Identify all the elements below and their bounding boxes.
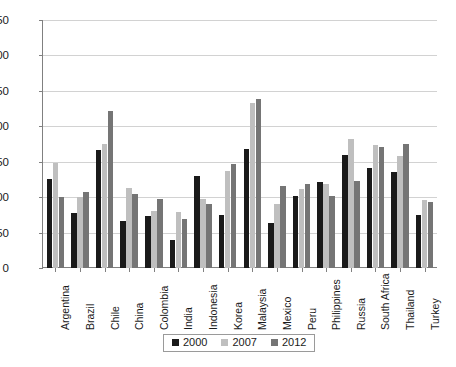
x-axis-tick-mark [326,268,327,272]
bar-2007-russia [348,139,353,268]
bar-group [314,20,339,268]
bar-2000-thailand [391,172,396,268]
bar-2000-indonesia [194,176,199,268]
bar-2007-brazil [77,197,82,268]
bar-group [166,20,191,268]
bar-2000-philippines [317,182,322,268]
bar-2007-korea [225,171,230,268]
bar-group [43,20,68,268]
y-axis-tick-mark [39,268,43,269]
bar-2000-china [120,221,125,268]
x-axis-label-south-africa: South Africa [379,273,391,330]
bar-group [412,20,437,268]
bar-group [117,20,142,268]
bar-group [363,20,388,268]
bar-group [339,20,364,268]
bar-2012-korea [231,164,236,268]
bar-group [388,20,413,268]
x-axis-tick-mark [277,268,278,272]
x-axis-tick-mark [154,268,155,272]
x-axis-label-brazil: Brazil [84,304,96,330]
bar-2012-malaysia [256,99,261,268]
x-axis-tick-mark [203,268,204,272]
legend-swatch-icon [271,339,278,346]
bar-2000-argentina [47,179,52,268]
bar-2000-mexico [268,223,273,268]
bar-2000-turkey [416,215,421,268]
x-axis-tick-mark [55,268,56,272]
y-axis-tick-label: 250 [0,85,9,97]
bar-2000-russia [342,155,347,268]
x-axis-label-china: China [133,303,145,330]
bar-2012-thailand [403,144,408,268]
bar-2007-thailand [397,156,402,268]
y-axis-tick-label: 50 [0,227,9,239]
bar-2000-colombia [145,216,150,268]
x-axis-label-peru: Peru [306,308,318,330]
chart-legend: 200020072012 [163,334,315,352]
x-axis-tick-mark [400,268,401,272]
y-axis-tick-label: 0 [0,262,9,274]
bar-2012-russia [354,181,359,268]
x-axis-tick-mark [228,268,229,272]
bar-2012-mexico [280,186,285,268]
x-axis-tick-mark [178,268,179,272]
x-axis-label-chile: Chile [109,306,121,330]
bar-group [191,20,216,268]
y-axis-tick-label: 200 [0,120,9,132]
bar-2012-argentina [59,197,64,268]
bar-group [142,20,167,268]
bar-group [240,20,265,268]
legend-item-2012[interactable]: 2012 [271,337,306,348]
x-axis-tick-mark [425,268,426,272]
legend-swatch-icon [172,339,179,346]
x-axis-label-mexico: Mexico [281,297,293,330]
bar-2012-peru [305,184,310,268]
x-axis-label-malaysia: Malaysia [256,289,268,330]
y-axis-tick-label: 300 [0,49,9,61]
bar-2007-india [176,212,181,268]
bar-2012-south-africa [379,147,384,268]
legend-item-2000[interactable]: 2000 [172,337,207,348]
x-axis-label-turkey: Turkey [429,298,441,330]
bar-2012-chile [108,111,113,268]
x-axis-label-indonesia: Indonesia [207,284,219,330]
x-axis-tick-mark [375,268,376,272]
x-axis-tick-mark [302,268,303,272]
bar-2000-malaysia [244,149,249,268]
bar-2012-india [182,219,187,268]
x-axis-label-thailand: Thailand [404,290,416,330]
x-axis-label-philippines: Philippines [330,279,342,330]
bar-group [289,20,314,268]
bar-2000-korea [219,215,224,268]
bar-2012-philippines [329,196,334,268]
x-axis-labels: ArgentinaBrazilChileChinaColombiaIndiaIn… [43,270,437,332]
bar-2012-indonesia [206,204,211,268]
bar-2007-malaysia [250,103,255,268]
bar-2000-brazil [71,213,76,268]
bar-2012-colombia [157,199,162,268]
y-axis-tick-label: 150 [0,156,9,168]
bar-2007-turkey [422,200,427,268]
bar-2007-colombia [151,211,156,268]
bar-2007-philippines [323,184,328,268]
bar-2000-peru [293,196,298,268]
bar-group [92,20,117,268]
bar-2007-china [126,188,131,268]
bar-2007-south-africa [373,145,378,268]
bar-2007-indonesia [200,199,205,268]
legend-item-2007[interactable]: 2007 [221,337,256,348]
bar-2007-argentina [53,163,58,268]
bar-2000-india [170,240,175,268]
chart-container: 050100150200250300350 ArgentinaBrazilChi… [0,0,456,367]
x-axis-tick-mark [252,268,253,272]
x-axis-tick-mark [105,268,106,272]
bar-2012-turkey [428,202,433,268]
x-axis-label-colombia: Colombia [158,286,170,330]
y-axis-tick-label: 350 [0,14,9,26]
x-axis-tick-mark [351,268,352,272]
legend-label: 2012 [282,337,306,348]
bar-2007-peru [299,189,304,268]
bar-group [68,20,93,268]
x-axis-label-korea: Korea [232,302,244,330]
